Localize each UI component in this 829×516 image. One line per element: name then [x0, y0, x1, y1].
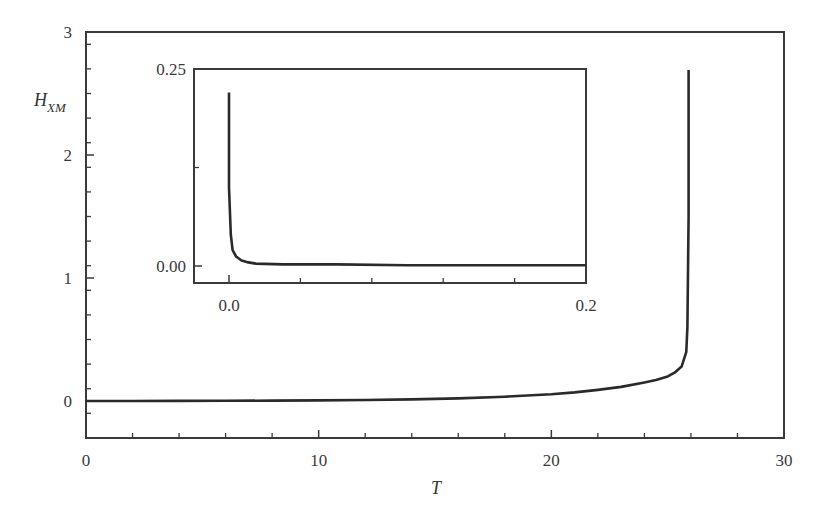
y-axis-label-subscript: XM — [46, 100, 67, 115]
inset-background — [194, 69, 586, 283]
x-tick-label: 30 — [776, 451, 793, 470]
y-tick-label: 2 — [64, 146, 73, 165]
x-tick-label: 20 — [543, 451, 560, 470]
y-tick-label: 0.25 — [156, 60, 186, 79]
y-tick-label: 0 — [64, 392, 73, 411]
y-tick-label: 0.00 — [156, 257, 186, 276]
y-axis-label-main: H — [33, 90, 48, 110]
y-tick-label: 1 — [64, 269, 73, 288]
x-tick-label: 0.0 — [218, 296, 239, 315]
y-axis-label: HXM — [33, 90, 67, 115]
x-tick-label: 0 — [82, 451, 91, 470]
y-tick-label: 3 — [64, 23, 73, 42]
chart-canvas: 01020300123 0.00.20.000.25 T HXM — [0, 0, 829, 516]
x-axis-label: T — [431, 478, 443, 498]
x-tick-label: 0.2 — [575, 296, 596, 315]
x-tick-label: 10 — [310, 451, 327, 470]
